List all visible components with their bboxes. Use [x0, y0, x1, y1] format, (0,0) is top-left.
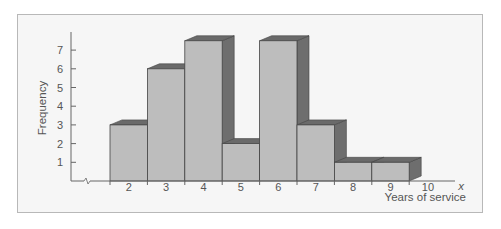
x-tick-label: 5 [238, 181, 244, 193]
y-tick-label: 7 [57, 44, 63, 56]
y-tick-label: 6 [57, 63, 63, 75]
x-tick-label: 8 [350, 181, 356, 193]
y-tick-label: 4 [57, 100, 63, 112]
y-axis-title: Frequency [36, 81, 48, 136]
x-axis-title: Years of service [385, 191, 466, 203]
x-tick-label: 3 [163, 181, 169, 193]
bar-9 [372, 157, 421, 181]
y-tick-label: 5 [57, 82, 63, 94]
axis-break-mark [84, 178, 90, 184]
histogram-chart: 12345672345678910 Frequency Years of ser… [0, 0, 501, 229]
x-tick-label: 6 [275, 181, 281, 193]
x-tick-label: 2 [126, 181, 132, 193]
x-tick-label: 7 [313, 181, 319, 193]
y-tick-label: 2 [57, 138, 63, 150]
x-tick-label: 4 [200, 181, 206, 193]
y-tick-label: 1 [57, 156, 63, 168]
bars-group [110, 36, 421, 181]
y-tick-label: 3 [57, 119, 63, 131]
